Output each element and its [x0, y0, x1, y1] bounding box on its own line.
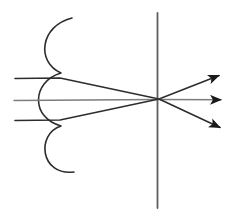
incident-ray-top: [15, 78, 159, 99]
source-wavefront-curve: [39, 18, 75, 172]
ray-diagram-figure: [0, 0, 234, 220]
ray-diagram-canvas: [0, 0, 234, 220]
incident-ray-axis: [14, 100, 159, 101]
exit-ray-down: [159, 99, 220, 128]
incident-ray-bottom: [15, 99, 159, 121]
exit-ray-up: [159, 76, 219, 100]
